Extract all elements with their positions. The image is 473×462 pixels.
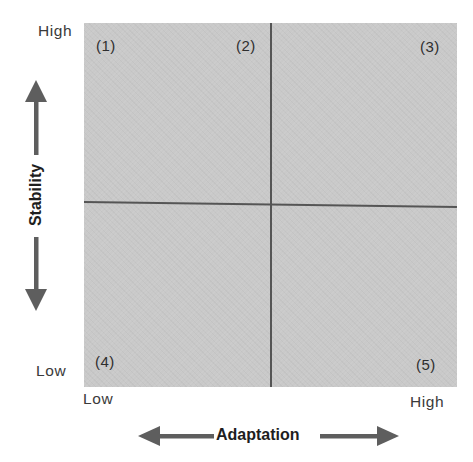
region-label-5: (5) bbox=[416, 356, 436, 373]
region-label-1: (1) bbox=[96, 37, 116, 54]
quadrant-field: (1) (2) (3) (4) (5) bbox=[84, 23, 457, 387]
x-axis-title: Adaptation bbox=[216, 426, 300, 444]
y-axis-high-label: High bbox=[38, 22, 72, 40]
region-label-2: (2) bbox=[236, 37, 256, 54]
region-label-4: (4) bbox=[95, 353, 115, 370]
x-axis-high-label: High bbox=[410, 393, 444, 411]
y-axis-low-label: Low bbox=[36, 362, 66, 380]
y-axis-title: Stability bbox=[27, 164, 45, 226]
x-axis-low-label: Low bbox=[83, 390, 113, 408]
region-label-3: (3) bbox=[420, 38, 440, 55]
